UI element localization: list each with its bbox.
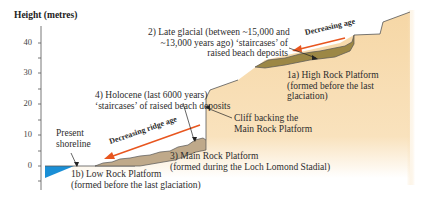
- tick-label-40: 40: [6, 37, 32, 47]
- tick-label-20: 20: [6, 98, 32, 108]
- present-shoreline-label: Present shoreline: [56, 128, 91, 149]
- tick-label-10: 10: [6, 129, 32, 139]
- cliff-label: Cliff backing the Main Rock Platform: [234, 113, 312, 134]
- tick-label-30: 30: [6, 67, 32, 77]
- tick-label-0: 0: [6, 160, 32, 170]
- holocene-label: 4) Holocene (last 6000 years) ‘staircase…: [95, 90, 230, 111]
- high-rock-platform-label: 1a) High Rock Platform (formed before th…: [287, 70, 379, 102]
- y-axis-title: Height (metres): [14, 10, 77, 20]
- y-axis-ticks: [38, 43, 41, 181]
- late-glacial-label: 2) Late glacial (between ~15,000 and ~13…: [148, 27, 288, 59]
- low-rock-platform-label: 1b) Low Rock Platform (formed before the…: [71, 169, 201, 190]
- sea: [45, 166, 74, 178]
